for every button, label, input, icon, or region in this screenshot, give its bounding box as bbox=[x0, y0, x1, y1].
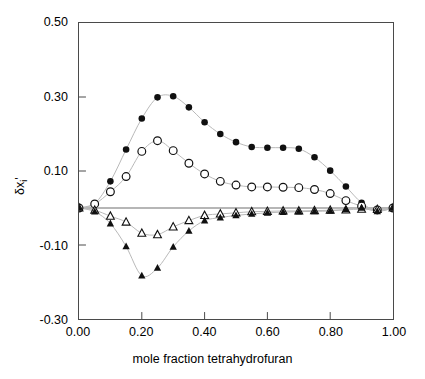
data-point-filled-circle bbox=[107, 178, 114, 185]
data-point-open-circle bbox=[248, 183, 256, 191]
plot-canvas bbox=[79, 23, 393, 319]
x-tick-label: 0.60 bbox=[255, 326, 279, 339]
data-point-open-circle bbox=[342, 197, 350, 205]
y-tick-label: 0.50 bbox=[44, 16, 68, 29]
data-point-filled-circle bbox=[280, 144, 287, 151]
plot-area bbox=[78, 22, 394, 320]
data-point-filled-triangle bbox=[122, 243, 129, 250]
y-tick-label: 0.30 bbox=[44, 90, 68, 103]
series-connector-filled-circles bbox=[79, 95, 393, 211]
data-point-open-circle bbox=[138, 148, 146, 156]
y-tick-label: 0.10 bbox=[44, 165, 68, 178]
data-point-filled-circle bbox=[343, 183, 350, 190]
data-point-filled-circle bbox=[248, 144, 255, 151]
y-axis-title: δxi' bbox=[13, 173, 30, 199]
data-point-open-circle bbox=[232, 181, 240, 189]
data-point-filled-circle bbox=[186, 104, 193, 111]
data-point-filled-circle bbox=[201, 119, 208, 126]
data-point-filled-circle bbox=[170, 93, 177, 100]
chart-figure: -0.30-0.100.100.300.50 δxi' 0.000.200.40… bbox=[0, 0, 425, 379]
x-tick-label: 0.00 bbox=[66, 326, 90, 339]
x-tick-label: 0.40 bbox=[192, 326, 216, 339]
x-axis-title: mole fraction tetrahydrofuran bbox=[0, 352, 425, 366]
data-point-open-triangle bbox=[138, 229, 146, 236]
data-point-open-circle bbox=[122, 173, 130, 181]
data-point-filled-circle bbox=[311, 154, 318, 161]
data-point-filled-circle bbox=[123, 146, 130, 153]
x-tick-label: 0.20 bbox=[129, 326, 153, 339]
series-filled-circles bbox=[79, 93, 393, 214]
data-point-filled-circle bbox=[154, 94, 161, 101]
data-point-open-circle bbox=[107, 188, 115, 196]
data-point-filled-circle bbox=[296, 146, 303, 153]
data-point-open-triangle bbox=[122, 218, 130, 225]
series-filled-triangles bbox=[79, 204, 393, 279]
data-point-filled-circle bbox=[327, 167, 334, 174]
x-tick-label: 1.00 bbox=[382, 326, 406, 339]
y-axis-title-delta: δx bbox=[13, 182, 27, 195]
data-point-open-triangle bbox=[169, 223, 177, 230]
data-point-filled-circle bbox=[233, 139, 240, 146]
data-point-open-circle bbox=[311, 186, 319, 194]
data-point-filled-circle bbox=[139, 115, 146, 122]
x-tick-label: 0.80 bbox=[319, 326, 343, 339]
data-point-open-circle bbox=[264, 183, 272, 191]
data-point-open-circle bbox=[279, 183, 287, 191]
data-point-open-circle bbox=[216, 177, 224, 185]
y-axis-title-prime: ' bbox=[13, 177, 27, 179]
data-point-open-circle bbox=[201, 170, 209, 178]
data-point-open-circle bbox=[169, 147, 177, 155]
data-point-open-circle bbox=[326, 190, 334, 198]
y-tick-label: -0.30 bbox=[40, 314, 69, 327]
data-point-filled-circle bbox=[217, 131, 224, 138]
y-axis: -0.30-0.100.100.300.50 bbox=[0, 0, 78, 379]
y-tick-label: -0.10 bbox=[40, 239, 69, 252]
data-point-filled-circle bbox=[264, 144, 271, 151]
data-point-open-circle bbox=[154, 137, 162, 145]
data-point-open-circle bbox=[295, 184, 303, 192]
data-point-open-circle bbox=[185, 159, 193, 167]
data-point-filled-triangle bbox=[185, 227, 192, 234]
x-axis: 0.000.200.400.600.801.00 bbox=[0, 326, 425, 346]
